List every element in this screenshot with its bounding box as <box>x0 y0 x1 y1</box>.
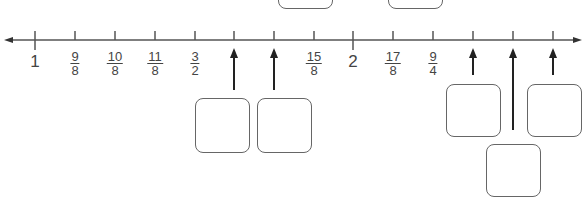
numerator: 10 <box>107 50 123 64</box>
denominator: 8 <box>151 64 158 77</box>
numerator: 9 <box>428 50 437 64</box>
denominator: 8 <box>310 64 317 77</box>
tick-label-whole: 1 <box>30 53 39 70</box>
tick-label-fraction: 178 <box>385 50 401 77</box>
tick-label-fraction: 108 <box>107 50 123 77</box>
tick-label-whole: 2 <box>348 53 357 70</box>
tick-label-fraction: 118 <box>147 50 163 77</box>
arrowhead-icon <box>230 48 238 58</box>
right-arrowhead-icon <box>573 37 582 43</box>
numerator: 9 <box>70 50 79 64</box>
tick-label-fraction: 94 <box>428 50 437 77</box>
denominator: 8 <box>71 64 78 77</box>
answer-box-20-8[interactable] <box>486 144 541 197</box>
denominator: 8 <box>111 64 118 77</box>
numerator: 11 <box>147 50 163 64</box>
numerator: 17 <box>385 50 401 64</box>
answer-box-21-8[interactable] <box>527 84 582 137</box>
answer-box-top-2[interactable] <box>388 0 443 9</box>
denominator: 8 <box>389 64 396 77</box>
answer-box-top-1[interactable] <box>278 0 333 9</box>
answer-box-19-8[interactable] <box>446 84 501 137</box>
denominator: 2 <box>191 64 198 77</box>
numerator: 3 <box>190 50 199 64</box>
tick-label-fraction: 98 <box>70 50 79 77</box>
tick-label-fraction: 158 <box>306 50 322 77</box>
left-arrowhead-icon <box>4 37 13 43</box>
arrowhead-icon <box>509 48 517 58</box>
arrowhead-icon <box>469 48 477 58</box>
arrowhead-icon <box>549 48 557 58</box>
numerator: 15 <box>306 50 322 64</box>
denominator: 4 <box>429 64 436 77</box>
answer-box-14-8[interactable] <box>257 98 312 153</box>
answer-box-13-8[interactable] <box>195 98 250 153</box>
arrowhead-icon <box>270 48 278 58</box>
tick-label-fraction: 32 <box>190 50 199 77</box>
